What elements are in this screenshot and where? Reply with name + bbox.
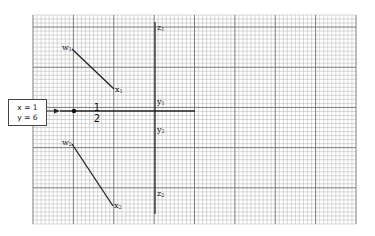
fraction-denominator: 2 [92, 113, 102, 124]
junction-dot [72, 109, 76, 113]
label-x2: x2 [114, 202, 122, 210]
label-z1: z1 [157, 24, 164, 32]
input-y-value: y = 6 [17, 113, 37, 123]
line-w2-x2 [72, 144, 113, 206]
label-z2: z2 [157, 190, 164, 198]
input-values-box: x = 1 y = 6 [8, 99, 47, 126]
label-x1: x1 [115, 86, 123, 94]
input-x-value: x = 1 [17, 103, 37, 113]
label-y1: y1 [157, 98, 165, 106]
label-w1: w1 [62, 44, 72, 52]
label-y2: y2 [157, 126, 165, 134]
label-w2: w2 [62, 139, 72, 147]
graph-paper-grid [0, 0, 375, 236]
fraction-numerator: 1 [92, 102, 102, 113]
fraction-one-half: 1 2 [92, 102, 102, 124]
